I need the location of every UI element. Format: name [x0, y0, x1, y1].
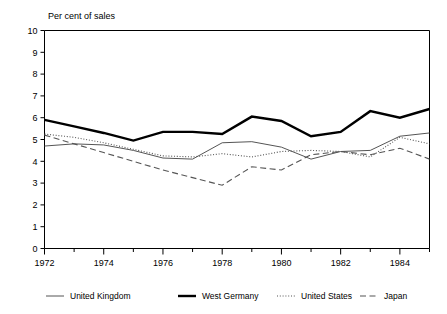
x-tick-label: 1978 [212, 258, 232, 268]
plot-frame [45, 31, 430, 249]
legend-label-3: Japan [384, 291, 407, 301]
chart-container: Per cent of sales01234567891019721974197… [0, 0, 447, 314]
x-tick-label: 1984 [390, 258, 410, 268]
y-tick-label: 8 [32, 69, 37, 79]
y-tick-label: 10 [27, 26, 37, 36]
y-tick-label: 5 [32, 135, 37, 145]
x-tick-label: 1976 [153, 258, 173, 268]
series-group [45, 109, 430, 185]
legend-label-1: West Germany [202, 291, 259, 301]
y-tick-label: 3 [32, 178, 37, 188]
legend-label-0: United Kingdom [70, 291, 130, 301]
series-line-2 [45, 134, 430, 157]
x-tick-label: 1972 [34, 258, 54, 268]
y-tick-label: 2 [32, 200, 37, 210]
y-tick-label: 0 [32, 244, 37, 254]
x-tick-label: 1982 [331, 258, 351, 268]
y-tick-label: 6 [32, 113, 37, 123]
y-tick-label: 1 [32, 222, 37, 232]
y-tick-label: 7 [32, 91, 37, 101]
chart-title: Per cent of sales [48, 11, 116, 21]
series-line-0 [45, 133, 430, 159]
y-tick-label: 4 [32, 157, 37, 167]
x-axis: 1972197419761978198019821984 [34, 249, 429, 268]
y-axis: 012345678910 [27, 26, 44, 254]
y-tick-label: 9 [32, 48, 37, 58]
series-line-1 [45, 109, 430, 141]
legend-label-2: United States [301, 291, 352, 301]
legend: United KingdomWest GermanyUnited StatesJ… [46, 291, 407, 301]
x-tick-label: 1974 [94, 258, 114, 268]
line-chart: Per cent of sales01234567891019721974197… [0, 0, 447, 314]
x-tick-label: 1980 [271, 258, 291, 268]
